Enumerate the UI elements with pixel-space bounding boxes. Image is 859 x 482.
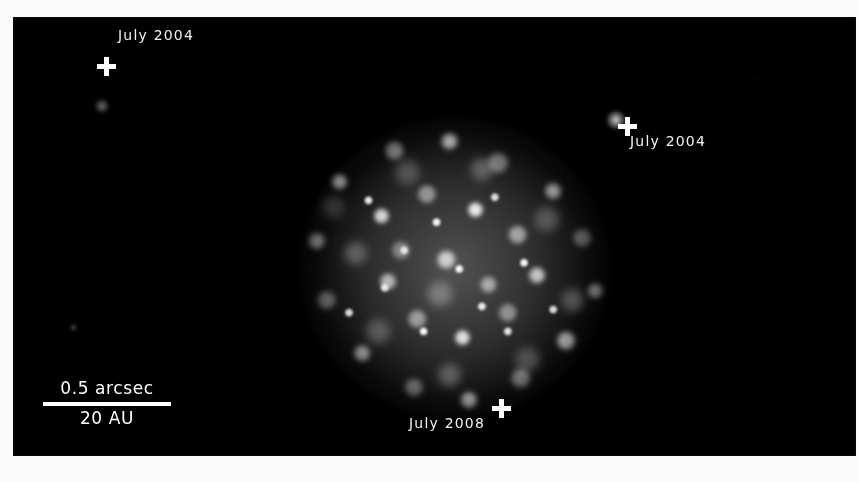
point-source-companion-right	[606, 110, 626, 130]
point-source-companion-left	[94, 98, 110, 114]
astronomical-figure: July 2004 July 2004 July 2008 0.5 arcsec…	[0, 0, 859, 482]
image-frame: July 2004 July 2004 July 2008 0.5 arcsec…	[14, 18, 855, 455]
image-canvas: July 2004 July 2004 July 2008 0.5 arcsec…	[14, 18, 855, 455]
scale-bar-physical-label: 20 AU	[43, 408, 171, 429]
epoch-label-july-2004-left: July 2004	[118, 27, 194, 43]
scale-bar-angular-label: 0.5 arcsec	[43, 378, 171, 399]
scale-bar: 0.5 arcsec 20 AU	[43, 378, 171, 430]
disk-speckle-bright-knots	[294, 113, 618, 425]
epoch-label-july-2004-right: July 2004	[630, 133, 706, 149]
epoch-label-july-2008: July 2008	[409, 415, 485, 431]
scale-bar-rule	[43, 402, 171, 406]
cross-marker-july-2004-left	[97, 57, 116, 76]
point-source-faint-speck	[69, 323, 78, 332]
